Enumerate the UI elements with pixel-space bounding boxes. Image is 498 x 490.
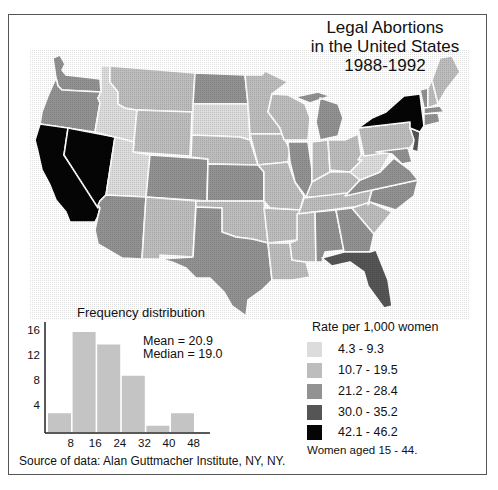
y-tick-label: 16 — [24, 324, 40, 336]
legend-note: Women aged 15 - 44. — [307, 444, 417, 456]
x-tick-label: 8 — [61, 437, 81, 449]
histogram-bar — [146, 426, 169, 432]
legend-item-5: 42.1 - 46.2 — [307, 424, 398, 440]
source-note: Source of data: Alan Guttmacher Institut… — [19, 454, 285, 468]
histogram-bar — [48, 413, 71, 432]
x-tick-label: 40 — [159, 437, 179, 449]
legend-swatch — [307, 363, 322, 378]
histogram-bar — [73, 332, 96, 432]
y-tick-label: 8 — [24, 374, 40, 386]
legend-label: 42.1 - 46.2 — [338, 425, 398, 439]
legend-label: 21.2 - 28.4 — [338, 384, 398, 398]
legend-label: 30.0 - 35.2 — [338, 405, 398, 419]
x-tick-label: 48 — [184, 437, 204, 449]
legend-label: 4.3 - 9.3 — [338, 342, 384, 356]
legend-item-3: 21.2 - 28.4 — [307, 383, 398, 399]
legend-swatch — [307, 384, 322, 399]
histogram-chart — [0, 0, 498, 490]
histogram-bar — [171, 413, 194, 432]
legend-item-2: 10.7 - 19.5 — [307, 362, 398, 378]
x-tick-label: 16 — [85, 437, 105, 449]
x-tick-label: 32 — [134, 437, 154, 449]
y-tick-label: 12 — [24, 349, 40, 361]
histogram-bars — [48, 332, 194, 432]
x-tick-label: 24 — [110, 437, 130, 449]
legend-label: 10.7 - 19.5 — [338, 363, 398, 377]
legend-title: Rate per 1,000 women — [312, 320, 438, 334]
histogram-bar — [122, 376, 145, 432]
legend-item-4: 30.0 - 35.2 — [307, 404, 398, 420]
legend-swatch — [307, 425, 322, 440]
legend-swatch — [307, 342, 322, 357]
legend-item-1: 4.3 - 9.3 — [307, 341, 384, 357]
histogram-bar — [97, 345, 120, 433]
y-tick-label: 4 — [24, 399, 40, 411]
legend-swatch — [307, 405, 322, 420]
